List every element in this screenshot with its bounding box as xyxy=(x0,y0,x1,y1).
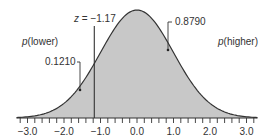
x-tick-label: 2.0 xyxy=(203,127,217,137)
x-tick-label: 3.0 xyxy=(240,127,254,137)
higher-value-marker xyxy=(167,49,170,52)
normal-distribution-chart xyxy=(0,0,274,139)
x-tick-label: −3.0 xyxy=(18,127,38,137)
x-tick-label: 1.0 xyxy=(167,127,181,137)
lower-value-marker xyxy=(79,89,82,92)
x-tick-label: −1.0 xyxy=(91,127,111,137)
lower-value-leader xyxy=(77,62,80,90)
p-lower-value: 0.1210 xyxy=(45,57,76,67)
p-higher-value: 0.8790 xyxy=(175,17,206,27)
x-tick-label: −2.0 xyxy=(54,127,74,137)
z-value: = −1.17 xyxy=(82,13,116,24)
x-axis-ticks xyxy=(20,118,254,123)
x-tick-label: 0.0 xyxy=(130,127,144,137)
z-symbol: z xyxy=(74,13,79,24)
p-higher-label: p(higher) xyxy=(218,37,258,47)
z-cutoff-label: z = −1.17 xyxy=(74,14,116,24)
p-lower-label: p(lower) xyxy=(22,37,58,47)
